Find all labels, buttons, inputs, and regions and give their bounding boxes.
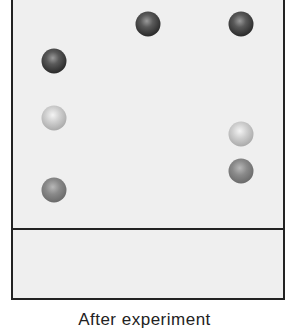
spot-lane2-dark (136, 12, 161, 37)
baseline-divider (13, 228, 283, 230)
spot-lane1-medium (42, 178, 67, 203)
spot-lane1-light (42, 106, 67, 131)
spot-lane3-medium (229, 159, 254, 184)
tlc-plate (11, 0, 285, 300)
spot-lane3-light (229, 122, 254, 147)
spot-lane3-dark (229, 12, 254, 37)
spot-lane1-dark (42, 49, 67, 74)
diagram-caption: After experiment (0, 310, 289, 330)
